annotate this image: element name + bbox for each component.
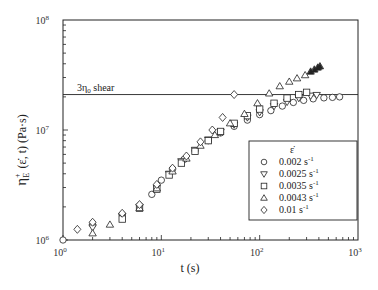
data-point [197,138,204,146]
data-point [336,94,342,100]
data-point [219,113,226,121]
data-point [290,99,296,105]
y-tick-label: 106 [36,234,50,246]
x-tick-label: 102 [250,246,264,258]
x-tick-label: 100 [53,246,67,258]
data-point [276,83,283,89]
data-point [106,221,113,227]
y-tick-label: 108 [36,14,50,26]
data-point [158,177,164,183]
data-point [296,91,302,97]
data-point [293,75,300,81]
y-tick-label: 107 [36,124,50,136]
data-point [231,91,238,99]
data-point [284,95,290,101]
chart: 100101102103106107108 3η0 shear t (s) ηE… [0,0,378,290]
data-point [254,100,261,106]
series-diamond [74,91,238,234]
data-point [89,230,96,236]
data-point [279,103,285,109]
y-axis-title: ηE+ (ε̇, t) (Pa·s) [13,114,31,185]
data-point [192,148,198,154]
x-tick-label: 101 [152,246,166,258]
data-point [286,78,293,84]
data-point [265,90,272,96]
data-point [74,225,81,233]
legend: ε̇0.002 s-10.0025 s-10.0035 s-10.0043 s-… [249,141,357,220]
shear-annotation: 3η0 shear [77,82,115,95]
data-point [329,94,335,100]
data-point [256,106,262,112]
data-point [321,95,327,101]
data-point [60,237,66,243]
data-point [205,137,211,143]
x-tick-label: 103 [348,246,362,258]
data-point [303,89,309,95]
data-point [271,100,277,106]
data-point [217,128,223,134]
y-axis-title-text: ηE+ (ε̇, t) (Pa·s) [13,114,31,185]
legend-marker-circle [261,159,267,165]
legend-marker-square [261,183,267,189]
tick-labels: 100101102103106107108 [36,14,363,258]
x-axis-title: t (s) [181,261,200,275]
